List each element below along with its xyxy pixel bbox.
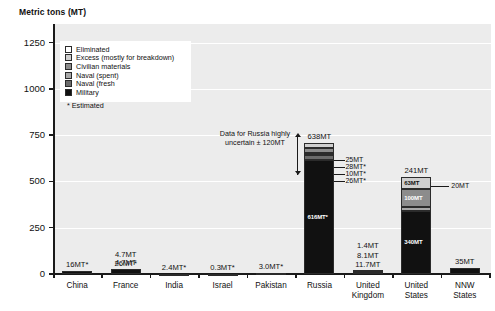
bar-value-label: 8.1MT <box>344 251 392 260</box>
bar-nnw-states[interactable] <box>450 268 480 274</box>
chart-root: Metric tons (MT) 025050075010001250 Chin… <box>0 0 495 311</box>
legend-item-label: Naval (spent) <box>76 71 119 80</box>
bar-united-states[interactable]: 340MT100MT63MT <box>401 177 431 274</box>
x-category-label-line: Russia <box>295 281 343 291</box>
legend-swatch-icon <box>65 80 72 87</box>
legend-swatch-icon <box>65 89 72 96</box>
legend-item-civilian-materials[interactable]: Civilian materials <box>65 62 186 70</box>
bar-segment-excess-mostly-for-breakdown[interactable]: 63MT <box>401 177 431 189</box>
x-category-label-united-kingdom: UnitedKingdom <box>344 281 392 301</box>
us-callout-label: 20MT <box>451 182 469 189</box>
russia-callout-label: 26MT* <box>345 177 366 184</box>
bar-segment-military[interactable] <box>62 271 92 274</box>
bar-total-label: 3.0MT* <box>247 262 295 271</box>
russia-uncertainty-arrow-down <box>295 171 301 175</box>
x-tick-mark <box>198 273 200 278</box>
x-category-label-line: Kingdom <box>344 291 392 301</box>
legend-footnote: * Estimated <box>67 101 186 110</box>
x-category-label-line: States <box>441 291 489 301</box>
legend: EliminatedExcess (mostly for breakdown)C… <box>60 41 191 102</box>
legend-item-military[interactable]: Military <box>65 88 186 96</box>
legend-swatch-icon <box>65 54 72 61</box>
russia-callout-label: 25MT <box>345 156 363 163</box>
x-category-label-china: China <box>53 281 101 291</box>
x-category-label-india: India <box>150 281 198 291</box>
x-tick-mark <box>344 273 346 278</box>
segment-value-label: 616MT* <box>307 214 327 220</box>
bar-pakistan[interactable] <box>256 273 286 274</box>
bar-segment-eliminated[interactable] <box>353 270 383 272</box>
segment-value-label: 340MT <box>404 239 422 245</box>
legend-item-label: Naval (fresh <box>76 79 115 88</box>
x-tick-mark <box>392 273 394 278</box>
bar-value-label: 4.7MT <box>101 250 149 259</box>
segment-value-label: 63MT <box>404 180 419 186</box>
y-tick-label: 1000 <box>15 83 45 94</box>
x-category-label-line: France <box>101 281 149 291</box>
y-tick-label: 500 <box>15 175 45 186</box>
bar-segment-military[interactable] <box>208 274 238 276</box>
russia-uncertainty-arrow-up <box>295 133 301 137</box>
bar-total-label: 2.4MT* <box>150 263 198 272</box>
y-tick-label: 750 <box>15 129 45 140</box>
legend-item-naval-spent[interactable]: Naval (spent) <box>65 71 186 79</box>
bar-total-label: 638MT <box>295 132 343 141</box>
russia-callout-label: 28MT* <box>345 163 366 170</box>
y-tick-mark <box>49 134 54 136</box>
bar-total-label: 16MT* <box>53 260 101 269</box>
bar-total-label: 0.3MT* <box>198 263 246 272</box>
bar-segment-naval-fresh[interactable] <box>304 155 334 160</box>
x-category-label-line: India <box>150 281 198 291</box>
bar-segment-military[interactable]: 340MT <box>401 211 431 274</box>
x-category-label-line: Israel <box>198 281 246 291</box>
x-category-label-russia: Russia <box>295 281 343 291</box>
segment-value-label: 100MT <box>404 195 422 201</box>
legend-item-label: Military <box>76 88 99 97</box>
bar-segment-military[interactable] <box>159 274 189 276</box>
x-category-label-line: China <box>53 281 101 291</box>
bar-segment-excess-mostly-for-breakdown[interactable] <box>304 143 334 148</box>
x-category-label-israel: Israel <box>198 281 246 291</box>
bar-united-kingdom[interactable] <box>353 270 383 274</box>
bar-total-label: 241MT <box>392 166 440 175</box>
legend-item-excess-mostly-for-breakdown[interactable]: Excess (mostly for breakdown) <box>65 54 186 62</box>
x-tick-mark <box>247 273 249 278</box>
legend-item-label: Eliminated <box>76 45 110 54</box>
x-tick-mark <box>53 273 55 278</box>
y-tick-label: 250 <box>15 222 45 233</box>
bar-russia[interactable]: 616MT* <box>304 143 334 274</box>
x-tick-mark <box>489 273 491 278</box>
y-axis-title: Metric tons (MT) <box>19 7 86 17</box>
legend-swatch-icon <box>65 63 72 70</box>
bar-segment-naval-spent[interactable] <box>401 207 431 211</box>
legend-rows: EliminatedExcess (mostly for breakdown)C… <box>65 45 186 97</box>
bar-segment-military[interactable] <box>256 273 286 275</box>
russia-uncertainty-arrow-shaft <box>297 136 298 175</box>
bar-france[interactable] <box>111 269 141 274</box>
bar-segment-military[interactable] <box>111 269 141 274</box>
bar-segment-military[interactable]: 616MT* <box>304 160 334 274</box>
y-tick-mark <box>49 88 54 90</box>
y-tick-label: 0 <box>15 268 45 279</box>
x-tick-mark <box>441 273 443 278</box>
bar-segment-civilian-materials[interactable] <box>304 148 334 153</box>
bar-segment-military[interactable] <box>450 268 480 274</box>
bar-segment-naval-spent[interactable] <box>304 153 334 155</box>
bar-value-label: 1.4MT <box>344 241 392 250</box>
y-tick-mark <box>49 42 54 44</box>
legend-item-eliminated[interactable]: Eliminated <box>65 45 186 53</box>
x-category-label-line: United <box>344 281 392 291</box>
legend-item-naval-fresh[interactable]: Naval (fresh <box>65 80 186 88</box>
y-tick-label: 1250 <box>15 37 45 48</box>
x-category-label-nnw-states: NNWStates <box>441 281 489 301</box>
russia-callout-leader <box>334 174 345 175</box>
x-category-label-france: France <box>101 281 149 291</box>
russia-callout-label: 10MT* <box>345 170 366 177</box>
x-category-label-united-states: UnitedStates <box>392 281 440 301</box>
x-tick-mark <box>295 273 297 278</box>
legend-swatch-icon <box>65 72 72 79</box>
x-category-label-line: States <box>392 291 440 301</box>
bar-china[interactable] <box>62 271 92 274</box>
x-category-label-line: NNW <box>441 281 489 291</box>
bar-segment-civilian-materials[interactable]: 100MT <box>401 189 431 208</box>
